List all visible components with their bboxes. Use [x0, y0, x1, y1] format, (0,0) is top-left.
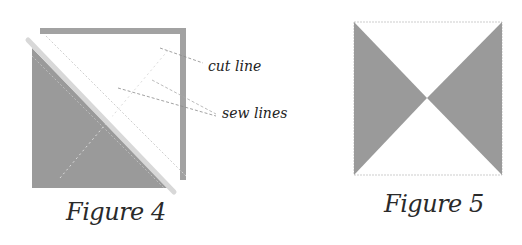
sew-lines-label: sew lines	[222, 105, 287, 121]
figure-5-caption: Figure 5	[384, 190, 484, 218]
right-border	[180, 28, 186, 180]
figure-4-caption: Figure 4	[66, 198, 166, 226]
cut-line-label: cut line	[208, 58, 261, 74]
quilt-diagram: cut line sew lines Figure 4 Figure 5	[0, 0, 522, 245]
figure-4-drawing	[28, 28, 216, 192]
top-border	[40, 28, 186, 34]
figure-5-drawing	[354, 22, 502, 175]
sew-lines-leader-1	[118, 88, 216, 116]
